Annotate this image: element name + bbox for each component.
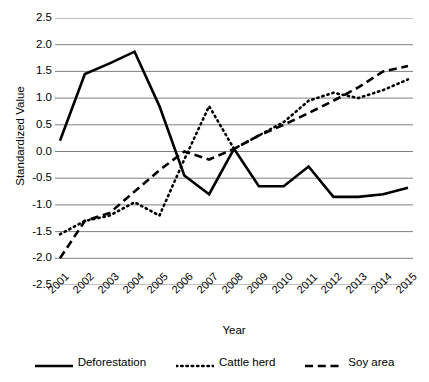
y-tick-label: -2.0 bbox=[18, 253, 52, 265]
y-tick-label: -0.5 bbox=[18, 172, 52, 184]
y-tick-label: -1.5 bbox=[18, 226, 52, 238]
x-axis-tick-labels: 2001200220032004200520062007200820092010… bbox=[55, 288, 413, 322]
series-line-cattle-herd bbox=[60, 79, 408, 234]
legend-label: Cattle herd bbox=[219, 356, 275, 368]
y-tick-label: 1.5 bbox=[18, 66, 52, 78]
y-tick-label: 2.0 bbox=[18, 39, 52, 51]
legend-item-cattle-herd[interactable]: Cattle herd bbox=[176, 356, 275, 368]
legend-item-soy-area[interactable]: Soy area bbox=[305, 356, 394, 368]
y-tick-label: 2.5 bbox=[18, 12, 52, 24]
plot-svg bbox=[55, 18, 413, 285]
y-tick-label: 0.5 bbox=[18, 119, 52, 131]
legend-swatch-dashed bbox=[305, 357, 343, 367]
legend-label: Deforestation bbox=[78, 356, 146, 368]
y-axis-tick-labels: 2.52.01.51.00.50.0-0.5-1.0-1.5-2.0-2.5 bbox=[14, 18, 52, 285]
series-line-soy-area bbox=[60, 66, 408, 258]
y-tick-label: 1.0 bbox=[18, 92, 52, 104]
legend-label: Soy area bbox=[348, 356, 394, 368]
legend-swatch-solid bbox=[35, 357, 73, 367]
series-lines bbox=[60, 52, 408, 259]
chart-legend: DeforestationCattle herdSoy area bbox=[0, 350, 429, 374]
plot-area bbox=[55, 18, 413, 285]
y-tick-label: -1.0 bbox=[18, 199, 52, 211]
series-line-deforestation bbox=[60, 52, 408, 197]
legend-swatch-dotted bbox=[176, 357, 214, 367]
y-tick-label: 0.0 bbox=[18, 146, 52, 158]
x-axis-title: Year bbox=[55, 324, 413, 336]
legend-item-deforestation[interactable]: Deforestation bbox=[35, 356, 146, 368]
line-chart-figure: Standardized Value 2.52.01.51.00.50.0-0.… bbox=[0, 0, 429, 382]
